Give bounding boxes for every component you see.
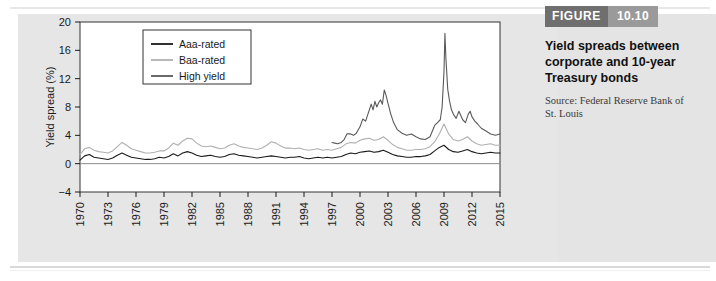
- y-tick-label: −4: [58, 186, 71, 198]
- x-tick-label: 1976: [130, 202, 142, 226]
- x-axis-tick-labels: 1970197319761979198219851988199119941997…: [74, 202, 506, 226]
- figure-source: Source: Federal Reserve Bank of St. Loui…: [545, 94, 685, 120]
- y-tick-label: 8: [65, 101, 71, 113]
- y-tick-label: 20: [59, 16, 71, 28]
- x-axis-ticks: [80, 192, 500, 197]
- x-tick-label: 1970: [74, 202, 86, 226]
- x-tick-label: 1997: [326, 202, 338, 226]
- y-tick-label: 16: [59, 44, 71, 56]
- x-tick-label: 1985: [214, 202, 226, 226]
- x-tick-label: 1988: [242, 202, 254, 226]
- figure-number-bar: FIGURE 10.10: [545, 6, 669, 27]
- y-tick-label: 4: [65, 129, 71, 141]
- x-tick-label: 2015: [494, 202, 506, 226]
- x-tick-label: 2000: [354, 202, 366, 226]
- bottom-divider-rule-primary: [10, 266, 710, 268]
- y-tick-label: 12: [59, 73, 71, 85]
- figure-caption-column: FIGURE 10.10 Yield spreads between corpo…: [545, 6, 697, 242]
- legend-label: Aaa-rated: [179, 38, 225, 50]
- y-axis-ticks: [75, 22, 80, 192]
- y-axis-title: Yield spread (%): [44, 67, 56, 148]
- y-axis-tick-labels: −4048121620: [58, 16, 71, 198]
- x-tick-label: 1979: [158, 202, 170, 226]
- figure-number: 10.10: [608, 6, 658, 27]
- legend-label: Baa-rated: [179, 54, 225, 66]
- x-tick-label: 2009: [438, 202, 450, 226]
- figure-page: −4048121620 1970197319761979198219851988…: [0, 0, 716, 281]
- figure-title: Yield spreads between corporate and 10-y…: [545, 38, 685, 86]
- chart-legend: Aaa-ratedBaa-ratedHigh yield: [143, 30, 251, 84]
- x-tick-label: 1982: [186, 202, 198, 226]
- x-tick-label: 2006: [410, 202, 422, 226]
- bottom-divider-rule-secondary: [10, 270, 710, 271]
- figure-label: FIGURE: [545, 6, 608, 27]
- yield-spread-line-chart: −4048121620 1970197319761979198219851988…: [40, 16, 520, 248]
- x-tick-label: 1991: [270, 202, 282, 226]
- chart-container: −4048121620 1970197319761979198219851988…: [40, 16, 520, 248]
- legend-label: High yield: [179, 70, 225, 82]
- y-tick-label: 0: [65, 158, 71, 170]
- x-tick-label: 1973: [102, 202, 114, 226]
- x-tick-label: 2012: [466, 202, 478, 226]
- x-tick-label: 1994: [298, 202, 310, 226]
- x-tick-label: 2003: [382, 202, 394, 226]
